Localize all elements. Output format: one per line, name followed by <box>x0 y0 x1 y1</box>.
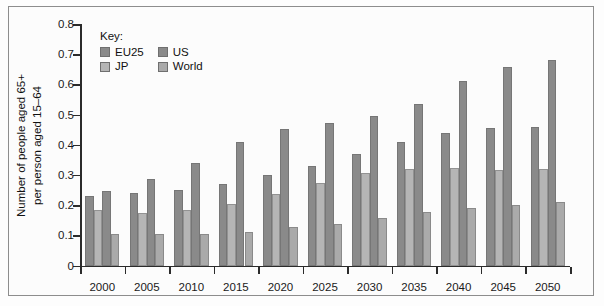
bar-us-2050[interactable] <box>548 60 557 266</box>
bar-world-2015[interactable] <box>245 232 254 266</box>
y-axis-tick <box>73 84 80 86</box>
bar-group <box>397 25 431 266</box>
bar-us-2045[interactable] <box>503 67 512 265</box>
x-axis-tick <box>392 267 394 274</box>
legend-item-jp[interactable]: JP <box>100 60 144 73</box>
y-axis-tick <box>73 145 80 147</box>
y-axis-line <box>80 24 82 267</box>
legend-swatch-icon <box>100 62 110 72</box>
bar-jp-2030[interactable] <box>361 173 370 265</box>
bar-world-2005[interactable] <box>155 234 164 265</box>
x-axis-tick <box>570 267 572 274</box>
x-axis-tick <box>125 267 127 274</box>
bar-jp-2015[interactable] <box>227 204 236 266</box>
bar-jp-2035[interactable] <box>405 169 414 266</box>
y-axis-tick <box>73 235 80 237</box>
legend-item-eu25[interactable]: EU25 <box>100 46 144 59</box>
bar-group <box>486 25 520 266</box>
x-axis-tick <box>214 267 216 274</box>
bar-us-2035[interactable] <box>414 104 423 266</box>
legend: Key: EU25USJPWorld <box>100 30 203 73</box>
bar-group <box>263 25 297 266</box>
y-axis-tick-label: 0.7 <box>36 48 74 60</box>
bar-eu25-2015[interactable] <box>219 184 228 266</box>
legend-swatch-icon <box>158 62 168 72</box>
bar-us-2030[interactable] <box>370 116 379 266</box>
y-axis-tick-label: 0.3 <box>36 169 74 181</box>
legend-item-label: US <box>173 46 189 59</box>
x-axis-line <box>80 266 570 268</box>
x-axis-tick <box>169 267 171 274</box>
bar-jp-2000[interactable] <box>94 210 103 266</box>
bar-us-2000[interactable] <box>102 191 111 266</box>
bar-us-2020[interactable] <box>280 129 289 265</box>
bar-eu25-2025[interactable] <box>308 166 317 266</box>
bar-world-2035[interactable] <box>423 212 432 265</box>
y-axis-tick-label: 0.6 <box>36 78 74 90</box>
bar-world-2030[interactable] <box>378 218 387 265</box>
bar-us-2005[interactable] <box>147 179 156 266</box>
bar-us-2040[interactable] <box>459 81 468 265</box>
bar-eu25-2035[interactable] <box>397 142 406 266</box>
y-axis-tick-label: 0.8 <box>36 18 74 30</box>
bar-eu25-2040[interactable] <box>441 133 450 266</box>
bar-eu25-2010[interactable] <box>174 190 183 265</box>
y-axis-tick-label: 0 <box>36 260 74 272</box>
bar-jp-2040[interactable] <box>450 168 459 265</box>
bar-eu25-2050[interactable] <box>531 127 540 266</box>
bar-group <box>531 25 565 266</box>
bar-world-2000[interactable] <box>111 234 120 265</box>
x-axis-tick-label: 2050 <box>518 281 578 293</box>
legend-item-world[interactable]: World <box>158 60 203 73</box>
bar-jp-2045[interactable] <box>495 170 504 266</box>
bar-group <box>441 25 475 266</box>
y-axis-tick <box>73 205 80 207</box>
bar-world-2045[interactable] <box>512 205 521 266</box>
y-axis-tick-label: 0.5 <box>36 109 74 121</box>
legend-grid: EU25USJPWorld <box>100 46 203 73</box>
x-axis-tick <box>258 267 260 274</box>
bar-jp-2010[interactable] <box>183 210 192 265</box>
x-axis-tick <box>303 267 305 274</box>
bar-us-2010[interactable] <box>191 163 200 265</box>
y-axis-tick <box>73 24 80 26</box>
bar-eu25-2020[interactable] <box>263 175 272 266</box>
bar-world-2050[interactable] <box>556 202 565 266</box>
x-axis-tick <box>347 267 349 274</box>
x-axis-tick <box>481 267 483 274</box>
legend-item-label: EU25 <box>115 46 144 59</box>
bar-group <box>352 25 386 266</box>
bar-eu25-2045[interactable] <box>486 128 495 265</box>
x-axis-tick <box>80 267 82 274</box>
bar-world-2025[interactable] <box>334 224 343 266</box>
legend-swatch-icon <box>100 47 110 57</box>
bar-world-2010[interactable] <box>200 234 209 265</box>
y-axis-tick-label: 0.1 <box>36 229 74 241</box>
bar-world-2040[interactable] <box>467 208 476 266</box>
x-axis-tick <box>525 267 527 274</box>
legend-item-label: JP <box>115 60 128 73</box>
bar-eu25-2005[interactable] <box>130 193 139 265</box>
x-axis-tick <box>436 267 438 274</box>
bar-eu25-2030[interactable] <box>352 154 361 266</box>
bar-us-2025[interactable] <box>325 123 334 266</box>
y-axis-tick <box>73 54 80 56</box>
bar-jp-2025[interactable] <box>316 183 325 265</box>
legend-swatch-icon <box>158 47 168 57</box>
bar-eu25-2000[interactable] <box>85 196 94 265</box>
bar-jp-2050[interactable] <box>539 169 548 266</box>
bar-jp-2020[interactable] <box>272 194 281 265</box>
y-axis-tick <box>73 175 80 177</box>
bar-group <box>308 25 342 266</box>
bar-group <box>219 25 253 266</box>
legend-item-us[interactable]: US <box>158 46 203 59</box>
legend-title: Key: <box>100 30 203 43</box>
legend-item-label: World <box>173 60 203 73</box>
figure-root: Number of people aged 65+ per person age… <box>0 0 604 306</box>
bar-jp-2005[interactable] <box>138 213 147 266</box>
y-axis-tick-label: 0.2 <box>36 199 74 211</box>
y-axis-tick <box>73 115 80 117</box>
bar-world-2020[interactable] <box>289 227 298 266</box>
bar-us-2015[interactable] <box>236 142 245 265</box>
y-axis-tick <box>73 266 80 268</box>
